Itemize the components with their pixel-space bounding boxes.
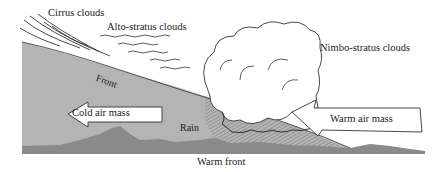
alto-stratus-clouds-icon [100, 35, 190, 69]
warm-air-mass-label: Warm air mass [330, 114, 393, 125]
alto-stratus-clouds-label: Alto-stratus clouds [107, 22, 187, 33]
warm-front-diagram: Cirrus clouds Alto-stratus clouds Nimbo-… [0, 0, 442, 172]
cirrus-clouds-label: Cirrus clouds [48, 8, 104, 19]
cold-air-mass-label: Cold air mass [72, 108, 130, 119]
diagram-caption: Warm front [197, 157, 245, 168]
diagram-canvas [0, 0, 442, 172]
rain-label: Rain [180, 123, 199, 133]
nimbo-stratus-clouds-label: Nimbo-stratus clouds [320, 43, 410, 54]
